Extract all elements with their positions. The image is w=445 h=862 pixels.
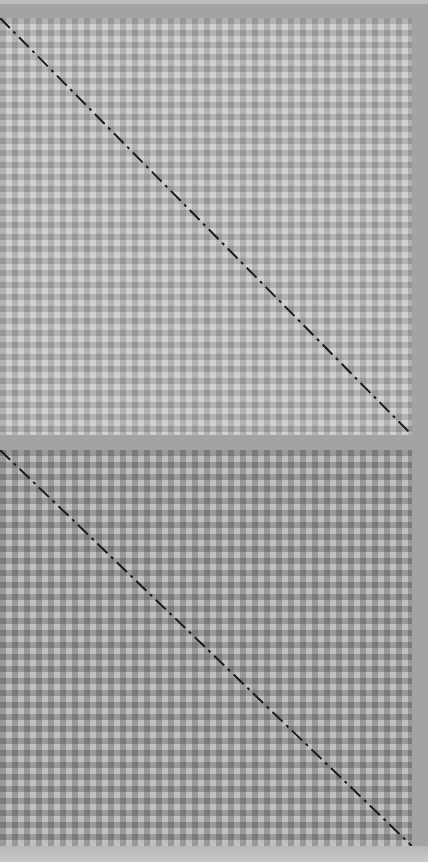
bottom-strip (0, 846, 428, 862)
top-texture-panel (0, 18, 412, 435)
top-strip (0, 0, 428, 4)
image-frame (0, 0, 428, 862)
bottom-gingham-image (0, 450, 412, 846)
top-gingham-image (0, 18, 412, 435)
bottom-texture-panel (0, 450, 412, 846)
